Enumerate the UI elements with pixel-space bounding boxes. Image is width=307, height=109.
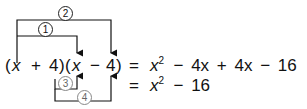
result-line-1: x2 − 4x + 4x − 16 <box>150 57 297 76</box>
plus-sign: + <box>31 57 41 74</box>
arrow-1 <box>17 36 77 53</box>
open-paren-2: ( <box>65 57 71 74</box>
term-x-2: x <box>72 57 81 74</box>
close-paren-1: ) <box>59 57 65 74</box>
close-paren-2: ) <box>116 57 122 74</box>
open-paren-1: ( <box>5 57 11 74</box>
equals-1: = <box>129 57 139 74</box>
equals-2: = <box>129 77 139 94</box>
label-3: 3 <box>58 76 73 91</box>
label-1: 1 <box>38 22 53 37</box>
label-4: 4 <box>77 90 92 105</box>
label-2: 2 <box>58 6 73 21</box>
term-4-1: 4 <box>49 57 58 74</box>
result-line-2: x2 − 16 <box>150 77 210 96</box>
term-4-2: 4 <box>106 57 115 74</box>
term-x-1: x <box>12 57 21 74</box>
minus-sign: − <box>90 57 100 74</box>
